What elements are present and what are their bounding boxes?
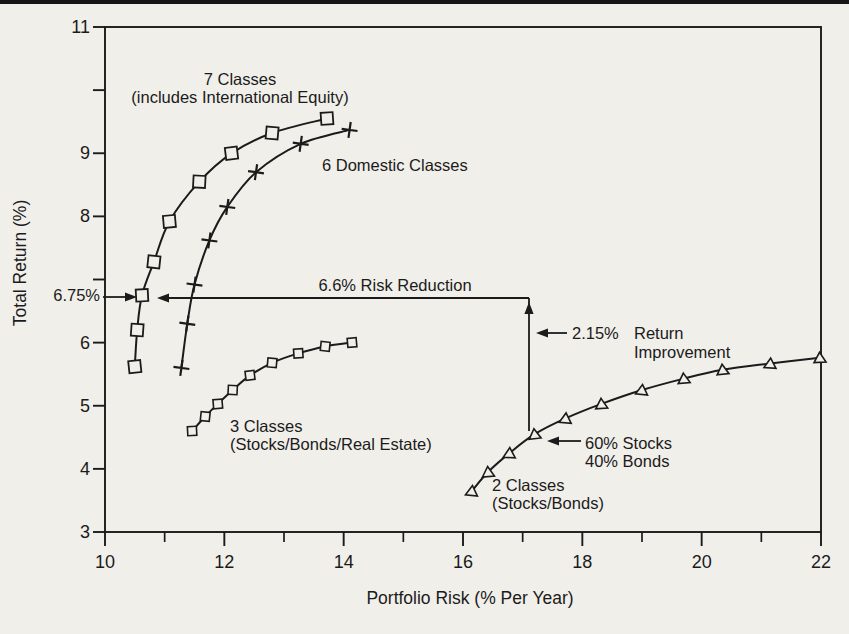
marker-triangle [595, 398, 608, 409]
marker-plus [218, 198, 236, 216]
marker-square [266, 126, 279, 139]
x-tick-label-14: 14 [334, 552, 354, 572]
marker-square-small [293, 349, 303, 359]
return-improvement-up-arrowhead [524, 302, 533, 314]
series-7-classes-label-line1: 7 Classes [204, 70, 276, 88]
series-3-classes-label-line1: 3 Classes [230, 417, 302, 435]
series-7-classes-label-line2: (includes International Equity) [131, 88, 348, 106]
x-tick-label-22: 22 [811, 552, 831, 572]
x-axis-title: Portfolio Risk (% Per Year) [366, 588, 573, 608]
marker-square-small [213, 399, 223, 409]
marker-plus [185, 276, 203, 294]
marker-square [131, 324, 144, 337]
return-improvement-callout-arrowhead [536, 328, 548, 337]
risk-reduction-label: 6.6% Risk Reduction [318, 276, 471, 294]
marker-square-small [267, 358, 277, 368]
mix-callout-arrowhead [547, 436, 559, 445]
marker-plus [341, 121, 359, 139]
marker-square-small [200, 412, 210, 422]
y-tick-label-6: 6 [80, 333, 90, 353]
marker-square-small [228, 385, 237, 394]
return-improvement-word1: Return [634, 324, 684, 342]
marker-square-small [347, 338, 357, 348]
y-tick-label-8: 8 [80, 206, 90, 226]
x-tick-label-10: 10 [95, 552, 115, 572]
marker-square [147, 255, 160, 268]
x-tick-label-12: 12 [214, 552, 234, 572]
marker-square [225, 147, 238, 160]
efficient-frontier-chart: 1012141618202234568911 Total Return (%) … [0, 0, 849, 634]
series-2-classes-label-line1: 2 Classes [492, 476, 564, 494]
mix-60-stocks-label: 60% Stocks [585, 434, 672, 452]
efficient-frontier-figure: 1012141618202234568911 Total Return (%) … [0, 0, 849, 634]
series-6-domestic-label: 6 Domestic Classes [322, 156, 468, 174]
y-tick-label-4: 4 [80, 459, 90, 479]
marker-square [193, 175, 206, 188]
x-tick-label-18: 18 [572, 552, 592, 572]
y-tick-label-3: 3 [80, 522, 90, 542]
marker-square-small [320, 341, 330, 351]
marker-triangle [559, 412, 572, 423]
marker-triangle [528, 428, 541, 439]
y-axis-title: Total Return (%) [10, 200, 30, 326]
series-2-classes-curve [472, 358, 820, 491]
marker-square [163, 215, 176, 228]
x-tick-label-20: 20 [692, 552, 712, 572]
marker-square [136, 289, 149, 302]
series-3-classes-label-line2: (Stocks/Bonds/Real Estate) [230, 435, 432, 453]
y-marker-6-75-label: 6.75% [53, 286, 100, 304]
return-improvement-word2: Improvement [634, 343, 731, 361]
marker-square [321, 112, 334, 125]
marker-square-small [187, 426, 196, 435]
marker-plus [200, 231, 218, 249]
marker-plus [172, 359, 190, 377]
mix-40-bonds-label: 40% Bonds [585, 452, 669, 470]
risk-reduction-arrowhead [157, 293, 169, 302]
series-2-classes-label-line2: (Stocks/Bonds) [492, 494, 604, 512]
y-tick-label-9: 9 [80, 143, 90, 163]
marker-square-small [245, 370, 255, 380]
y-tick-label-11: 11 [71, 17, 90, 37]
marker-plus [292, 135, 310, 153]
marker-plus [178, 315, 196, 333]
marker-square [128, 360, 141, 373]
return-improvement-value: 2.15% [572, 324, 619, 342]
x-tick-label-16: 16 [453, 552, 473, 572]
y-tick-label-5: 5 [80, 396, 90, 416]
